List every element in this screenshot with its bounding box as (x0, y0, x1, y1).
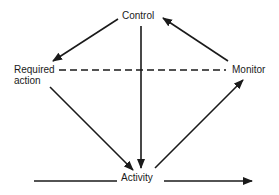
node-required-action-line2: action (14, 75, 55, 86)
node-required-action-line1: Required (14, 64, 55, 75)
edge-required-action-to-activity (50, 87, 133, 170)
node-required-action: Required action (14, 64, 55, 86)
node-monitor: Monitor (232, 64, 265, 75)
diagram-edges (0, 0, 279, 195)
edge-control-to-required-action (53, 19, 118, 61)
node-activity: Activity (121, 172, 153, 183)
node-control: Control (122, 10, 154, 21)
edge-monitor-to-control (163, 18, 228, 61)
edge-activity-to-monitor (155, 80, 243, 168)
control-loop-diagram: Control Required action Monitor Activity (0, 0, 279, 195)
